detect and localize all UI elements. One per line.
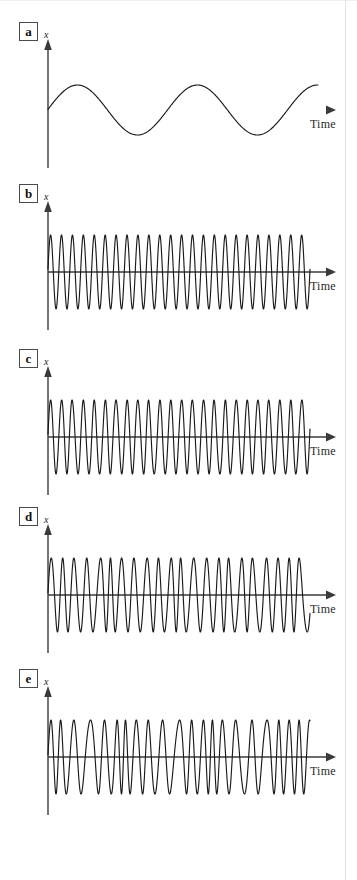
x-axis-arrowhead-e: [326, 752, 336, 761]
y-axis-arrowhead-e: [44, 686, 52, 697]
waveform-figure: axTimebxTimecxTimedxTimeexTime: [0, 0, 357, 880]
plot-e: [0, 0, 357, 880]
